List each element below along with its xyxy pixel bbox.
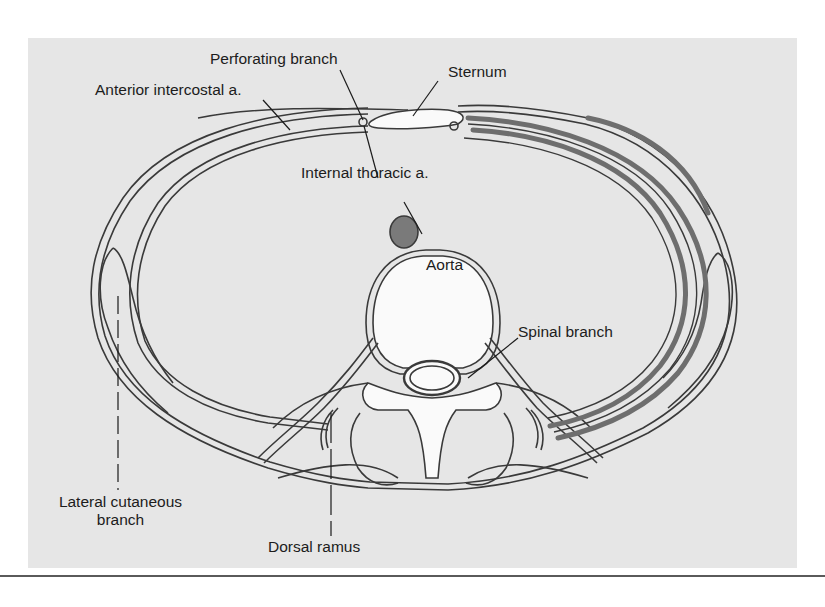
label-lateral-cutaneous-line2: branch	[33, 511, 208, 529]
label-perforating-branch: Perforating branch	[210, 50, 338, 68]
aorta-shape	[390, 216, 418, 248]
label-lateral-cutaneous-branch: Lateral cutaneous branch	[33, 493, 208, 529]
label-sternum: Sternum	[448, 63, 507, 81]
label-spinal-branch: Spinal branch	[518, 323, 613, 341]
thorax-diagram-drawing	[28, 38, 797, 568]
thorax-cross-section-figure: Perforating branch Sternum Anterior inte…	[28, 38, 797, 568]
vertebral-arch	[363, 383, 501, 478]
posterior-intercostal-right	[490, 338, 603, 458]
label-lateral-cutaneous-line1: Lateral cutaneous	[33, 493, 208, 511]
leader-perforating-branch	[340, 70, 363, 120]
label-aorta: Aorta	[426, 256, 463, 274]
label-internal-thoracic-artery: Internal thoracic a.	[301, 164, 429, 182]
bleed-through-text-top	[0, 2, 825, 30]
page-divider-rule	[0, 575, 825, 577]
label-anterior-intercostal-artery: Anterior intercostal a.	[95, 81, 241, 99]
label-dorsal-ramus: Dorsal ramus	[268, 538, 360, 556]
bleed-through-text-bottom	[0, 584, 825, 607]
